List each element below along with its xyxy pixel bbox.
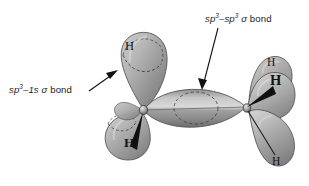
label-sp3-sp3-orbital: sp — [205, 13, 215, 24]
atom-label-hydrogen-lower-right: H — [272, 156, 280, 168]
leader-arrow-sp3-sp3 — [198, 28, 218, 90]
label-sp3-sp3-sigma-bond: sp3–sp3 σ bond — [205, 13, 272, 24]
sigma-bond-sp3-sp3-orbital — [143, 89, 246, 127]
label-sp3-1s-sigma: σ — [42, 84, 48, 95]
atom-label-hydrogen-upper-right: H — [267, 57, 275, 69]
label-sp3-sp3-exponent2: 3 — [235, 12, 239, 19]
atom-label-hydrogen-upper-left: H — [125, 40, 134, 53]
label-sp3-1s-orbital: sp — [9, 84, 19, 95]
carbon-nucleus-left — [139, 105, 147, 114]
leader-arrow-sp3-1s — [89, 70, 118, 91]
label-sp3-1s-sigma-bond: sp3–1s σ bond — [9, 84, 72, 95]
label-sp3-sp3-bond-word: bond — [250, 13, 272, 24]
figure-canvas: sp3–1s σ bond sp3–sp3 σ bond H H H H H — [0, 0, 309, 186]
label-sp3-sp3-sigma: σ — [241, 13, 247, 24]
label-sp3-1s-bond-word: bond — [50, 84, 72, 95]
atom-label-hydrogen-mid-right: H — [270, 73, 281, 88]
atom-label-hydrogen-lower-left: H — [124, 136, 135, 150]
label-sp3-1s-partner: 1s — [28, 84, 38, 95]
label-sp3-sp3-orbital2: sp — [224, 13, 234, 24]
